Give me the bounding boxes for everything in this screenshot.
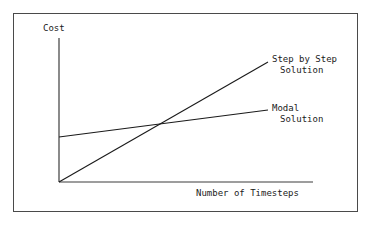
series-line-modal-solution bbox=[59, 110, 268, 137]
series-line-step-by-step-solution bbox=[59, 62, 268, 182]
series-label-modal-line-1: Modal bbox=[272, 103, 299, 113]
y-axis-title: Cost bbox=[43, 23, 65, 34]
series-label-modal-line-2: Solution bbox=[272, 114, 323, 125]
figure-screenshot: Cost Number of Timesteps Step by StepSol… bbox=[0, 0, 373, 226]
series-label-step-by-step-solution: Step by StepSolution bbox=[272, 54, 337, 76]
series-label-step-line-2: Solution bbox=[272, 65, 337, 76]
x-axis-title: Number of Timesteps bbox=[196, 188, 299, 199]
series-label-modal-solution: ModalSolution bbox=[272, 103, 323, 125]
series-label-step-line-1: Step by Step bbox=[272, 54, 337, 64]
